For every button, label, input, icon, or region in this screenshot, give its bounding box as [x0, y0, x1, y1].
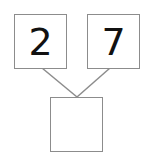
part-box-right: 7 — [87, 14, 140, 69]
part-value-left: 2 — [28, 23, 52, 61]
right-connector — [77, 68, 110, 97]
number-bond-diagram: 2 7 — [0, 0, 145, 157]
whole-box[interactable] — [50, 97, 103, 152]
left-connector — [42, 68, 77, 97]
part-value-right: 7 — [101, 23, 125, 61]
part-box-left: 2 — [14, 14, 67, 69]
